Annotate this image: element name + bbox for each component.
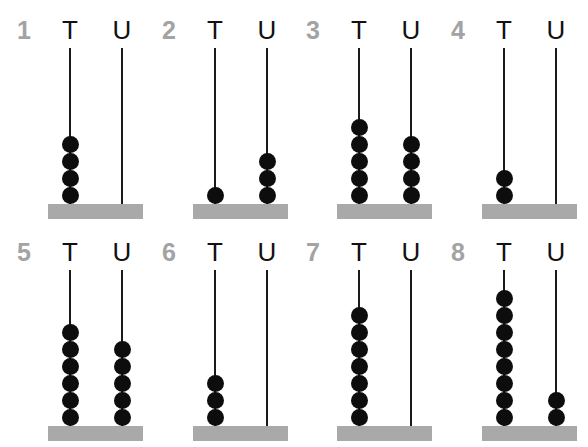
- abacus-number: 1: [17, 18, 31, 43]
- units-bead: [259, 187, 276, 204]
- tens-bead: [351, 358, 368, 375]
- units-bead: [403, 187, 420, 204]
- units-rod: [410, 270, 412, 426]
- tens-column-label: T: [60, 18, 80, 43]
- tens-column-label: T: [349, 240, 369, 265]
- abacus-number: 8: [451, 240, 465, 265]
- abacus-base: [193, 426, 288, 441]
- units-bead: [548, 409, 565, 426]
- abacus-base: [337, 204, 432, 219]
- tens-bead: [496, 307, 513, 324]
- units-column-label: U: [546, 18, 566, 43]
- units-rod: [555, 48, 557, 204]
- abacus-3: 3TU: [306, 18, 451, 241]
- tens-bead: [62, 153, 79, 170]
- abacus-base: [337, 426, 432, 441]
- abacus-number: 5: [17, 240, 31, 265]
- abacus-base: [193, 204, 288, 219]
- abacus-base: [482, 426, 577, 441]
- units-rod: [121, 48, 123, 204]
- tens-bead: [207, 392, 224, 409]
- tens-column-label: T: [60, 240, 80, 265]
- tens-bead: [351, 170, 368, 187]
- tens-bead: [351, 307, 368, 324]
- tens-bead: [351, 392, 368, 409]
- tens-bead: [496, 341, 513, 358]
- units-bead: [114, 375, 131, 392]
- tens-bead: [496, 170, 513, 187]
- tens-bead: [351, 153, 368, 170]
- units-column-label: U: [257, 240, 277, 265]
- tens-bead: [351, 324, 368, 341]
- tens-bead: [62, 170, 79, 187]
- tens-bead: [62, 341, 79, 358]
- abacus-number: 3: [306, 18, 320, 43]
- abacus-base: [48, 426, 143, 441]
- tens-bead: [496, 375, 513, 392]
- units-bead: [114, 392, 131, 409]
- tens-column-label: T: [205, 18, 225, 43]
- tens-bead: [207, 375, 224, 392]
- tens-bead: [351, 136, 368, 153]
- tens-bead: [496, 324, 513, 341]
- tens-bead: [62, 187, 79, 204]
- units-bead: [259, 153, 276, 170]
- tens-bead: [207, 409, 224, 426]
- tens-column-label: T: [494, 18, 514, 43]
- units-column-label: U: [546, 240, 566, 265]
- tens-rod: [214, 48, 216, 204]
- units-column-label: U: [112, 18, 132, 43]
- units-bead: [259, 170, 276, 187]
- tens-bead: [62, 136, 79, 153]
- abacus-7: 7TU: [306, 240, 451, 447]
- abacus-number: 7: [306, 240, 320, 265]
- abacus-8: 8TU: [451, 240, 588, 447]
- units-column-label: U: [257, 18, 277, 43]
- units-bead: [403, 170, 420, 187]
- units-bead: [403, 153, 420, 170]
- tens-bead: [62, 358, 79, 375]
- tens-bead: [351, 341, 368, 358]
- units-bead: [114, 409, 131, 426]
- abacus-number: 6: [162, 240, 176, 265]
- tens-column-label: T: [205, 240, 225, 265]
- tens-bead: [496, 392, 513, 409]
- units-bead: [114, 358, 131, 375]
- tens-bead: [496, 358, 513, 375]
- abacus-1: 1TU: [17, 18, 162, 241]
- tens-bead: [351, 119, 368, 136]
- tens-bead: [496, 409, 513, 426]
- abacus-number: 4: [451, 18, 465, 43]
- tens-bead: [62, 375, 79, 392]
- tens-bead: [351, 187, 368, 204]
- tens-bead: [207, 187, 224, 204]
- abacus-2: 2TU: [162, 18, 307, 241]
- abacus-6: 6TU: [162, 240, 307, 447]
- units-column-label: U: [112, 240, 132, 265]
- abacus-base: [48, 204, 143, 219]
- tens-column-label: T: [494, 240, 514, 265]
- tens-bead: [496, 187, 513, 204]
- tens-bead: [62, 409, 79, 426]
- tens-bead: [351, 375, 368, 392]
- units-bead: [403, 136, 420, 153]
- abacus-4: 4TU: [451, 18, 588, 241]
- tens-bead: [62, 392, 79, 409]
- abacus-number: 2: [162, 18, 176, 43]
- abacus-5: 5TU: [17, 240, 162, 447]
- units-rod: [266, 270, 268, 426]
- units-bead: [114, 341, 131, 358]
- units-bead: [548, 392, 565, 409]
- tens-column-label: T: [349, 18, 369, 43]
- abacus-base: [482, 204, 577, 219]
- tens-bead: [62, 324, 79, 341]
- units-column-label: U: [401, 240, 421, 265]
- tens-bead: [496, 290, 513, 307]
- units-column-label: U: [401, 18, 421, 43]
- tens-bead: [351, 409, 368, 426]
